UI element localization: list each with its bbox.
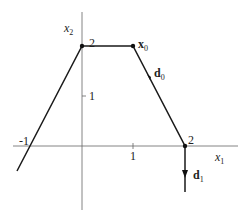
- x0-label: x0: [138, 38, 148, 53]
- d1-label: d1: [193, 169, 204, 184]
- x-tick-label-2: 2: [188, 134, 194, 146]
- x-tick-label-neg1: -1: [19, 135, 29, 147]
- x2-axis-label: x2: [64, 22, 73, 37]
- y-tick-label-1: 1: [89, 90, 95, 102]
- y-tick-label-2: 2: [89, 37, 95, 49]
- d1-arrow-icon: [182, 170, 188, 178]
- vertex-2-0: [183, 144, 187, 148]
- x-tick-label-1: 1: [130, 150, 136, 162]
- d0-label: d0: [154, 67, 165, 82]
- x1-axis-label: x1: [215, 151, 224, 166]
- vertex-x0: [131, 44, 135, 48]
- vertex-0-2: [80, 44, 84, 48]
- feasible-region-diagram: [0, 0, 250, 219]
